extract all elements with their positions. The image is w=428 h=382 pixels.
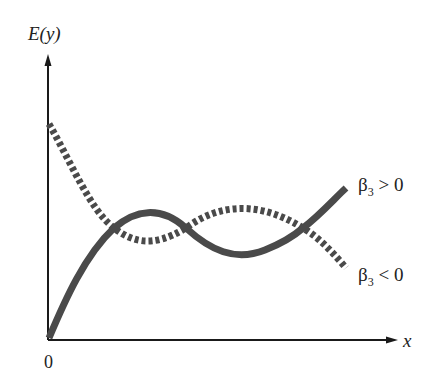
origin-label: 0 (44, 352, 53, 372)
curve-beta3-positive (49, 188, 346, 338)
cubic-diagram: E(y) x 0 β3 > 0 β3 < 0 (0, 0, 428, 382)
y-axis-label: E(y) (27, 23, 61, 45)
label-beta3-negative: β3 < 0 (358, 264, 403, 289)
x-axis-label: x (402, 330, 412, 351)
x-axis-arrow-icon (386, 337, 398, 344)
y-axis-arrow-icon (45, 54, 52, 66)
label-beta3-positive: β3 > 0 (358, 174, 403, 199)
